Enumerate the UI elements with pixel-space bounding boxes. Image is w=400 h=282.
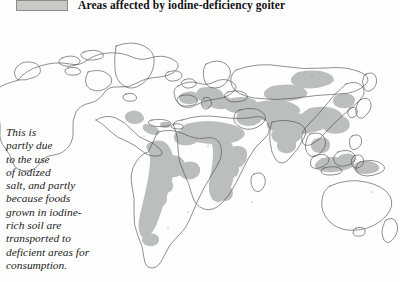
- caption-line: to the use: [6, 153, 110, 166]
- caption-line: of iodized: [6, 166, 110, 179]
- figure-root: Areas affected by iodine-deficiency goit…: [0, 0, 400, 282]
- affected-region-india-peninsula: [277, 138, 296, 154]
- caption-line: transported to: [6, 232, 110, 245]
- island-dot: [312, 76, 313, 77]
- island-dot: [168, 228, 169, 229]
- legend-color-swatch: [16, 0, 68, 11]
- affected-region-caribbean: [160, 122, 171, 128]
- island-dot: [208, 146, 209, 147]
- affected-region-bolivia: [157, 179, 173, 193]
- affected-region-borneo: [338, 154, 355, 167]
- caption-line: rich soil are: [6, 219, 110, 232]
- affected-region-indochina: [311, 138, 330, 154]
- island-dot: [188, 212, 189, 213]
- island-dot: [196, 140, 197, 141]
- affected-region-great-lakes: [227, 164, 239, 177]
- caption-line: consumption.: [6, 259, 110, 272]
- affected-region-manchuria: [333, 94, 355, 109]
- island-dot: [144, 136, 145, 137]
- affected-region-argentina-north: [154, 194, 167, 206]
- figure-caption: This is partly due to the use of iodized…: [6, 126, 110, 272]
- caption-line: grown in iodine-: [6, 206, 110, 219]
- figure-title: Areas affected by iodine-deficiency goit…: [78, 0, 285, 11]
- island-dot: [251, 201, 252, 202]
- affected-region-southern-africa: [217, 186, 233, 201]
- caption-line: because foods: [6, 192, 110, 205]
- caption-line: partly due: [6, 139, 110, 152]
- figure-legend-header: Areas affected by iodine-deficiency goit…: [0, 0, 400, 16]
- caption-line: This is: [6, 126, 110, 139]
- caption-line: salt, and partly: [6, 179, 110, 192]
- island-dot: [372, 192, 373, 193]
- caption-line: deficient areas for: [6, 246, 110, 259]
